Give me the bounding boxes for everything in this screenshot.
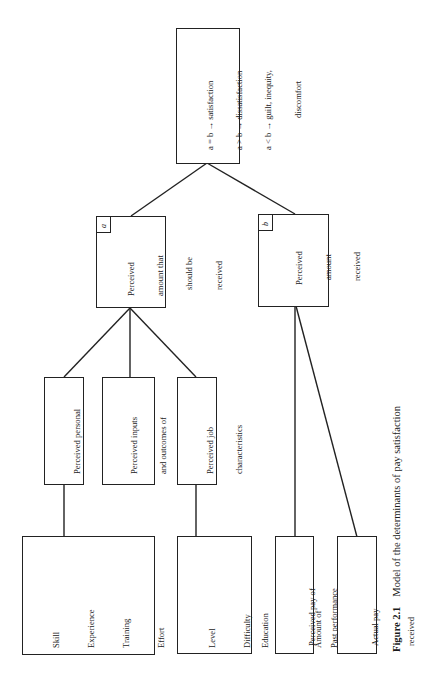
connector-a-to-personal-inputs: [64, 308, 130, 377]
figure-label: Figure 2.1: [391, 607, 402, 652]
node-job-characteristics-label: Perceived job characteristics: [186, 425, 255, 474]
node-a-label: Perceived amount that should be received: [107, 255, 234, 296]
condition-equal: a = b → satisfaction: [206, 70, 216, 150]
figure-title: Model of the determinants of pay satisfa…: [391, 406, 402, 597]
connector-outcome-to-b: [207, 163, 295, 214]
node-a-tag-label: a: [100, 224, 108, 228]
node-b-tag-label: b: [262, 222, 270, 226]
condition-less-cont: discomfort: [294, 70, 304, 150]
connector-b-to-actual-pay: [296, 306, 357, 537]
leaf-actual-pay-text: Actual pay received: [345, 609, 426, 646]
connector-outcome-to-a: [131, 163, 207, 216]
condition-less: a < b → guilt, inequity,: [264, 70, 274, 150]
figure-caption: Figure 2.1Model of the determinants of p…: [391, 406, 403, 652]
outcome-conditions: a = b → satisfaction a > b → dissatisfac…: [186, 70, 313, 150]
condition-greater: a > b → dissatisfaction: [235, 70, 245, 150]
node-b-label: Perceived amount received: [275, 251, 373, 285]
connector-a-to-job-characteristics: [130, 308, 196, 377]
